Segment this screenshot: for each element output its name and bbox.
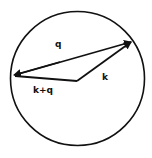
vector-diagram: q k k+q [0, 0, 152, 158]
vector-k-plus-q-line [15, 76, 77, 81]
sphere-circle [11, 12, 145, 146]
vector-q-tail-arrow [14, 62, 60, 75]
label-k-plus-q: k+q [33, 85, 53, 95]
label-k: k [102, 72, 109, 82]
label-q: q [55, 39, 61, 49]
